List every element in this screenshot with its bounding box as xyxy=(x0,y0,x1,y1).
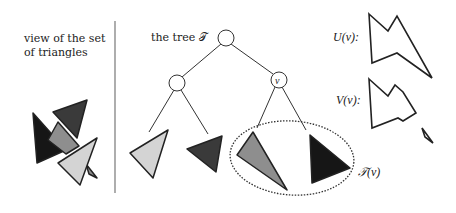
tree-left-node xyxy=(169,75,185,91)
leaf-triangle-dark xyxy=(187,136,222,172)
node-nu-label: ν xyxy=(275,75,280,86)
leaf-triangle-mid xyxy=(237,132,287,190)
triangle-set-view xyxy=(33,100,97,185)
tree-title: the tree 𝒯 xyxy=(151,31,209,44)
polygon-V-nu xyxy=(369,79,416,128)
leaf-triangle-light xyxy=(130,130,168,178)
leaf-triangle-black xyxy=(310,135,350,183)
label-T-nu: 𝒯(ν) xyxy=(358,165,380,179)
label-U-nu: U(ν): xyxy=(333,30,359,44)
diagram-canvas: view of the set of triangles the tree 𝒯 … xyxy=(0,0,456,213)
tree-root-node xyxy=(218,30,234,46)
label-V-nu: V(ν): xyxy=(336,93,361,107)
polygon-U-nu xyxy=(369,14,432,78)
caption-line-1: view of the set xyxy=(23,32,106,45)
polygon-V-nu-small xyxy=(422,128,433,143)
set-sliver-gray xyxy=(86,164,97,178)
caption-line-2: of triangles xyxy=(24,46,88,59)
